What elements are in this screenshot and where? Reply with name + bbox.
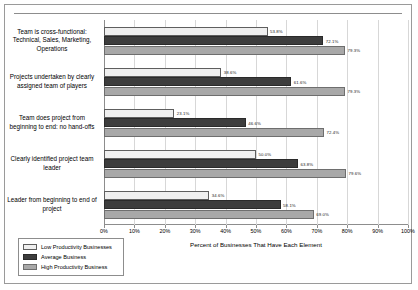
bar[interactable] (104, 77, 291, 86)
bar[interactable] (104, 128, 324, 137)
bar[interactable] (104, 46, 345, 55)
x-tick-label: 70% (302, 228, 332, 234)
legend-label: Low Productivity Businesses (41, 244, 112, 250)
bar-value-label: 58.1% (283, 202, 296, 207)
bar[interactable] (104, 36, 323, 45)
bar-row: 46.6% (104, 118, 408, 127)
bar-row: 79.3% (104, 87, 408, 96)
bar-row: 72.4% (104, 128, 408, 137)
bar-value-label: 79.6% (348, 171, 361, 176)
bar-row: 69.0% (104, 210, 408, 219)
bar-value-label: 23.1% (177, 111, 190, 116)
bar-value-label: 63.8% (300, 161, 313, 166)
bar[interactable] (104, 191, 209, 200)
bar[interactable] (104, 109, 174, 118)
x-tick-label: 40% (211, 228, 241, 234)
x-tick-label: 0% (89, 228, 119, 234)
bar-value-label: 38.6% (224, 70, 237, 75)
category-label: Leader from beginning to end of project (5, 191, 99, 219)
bar-group: 23.1%46.6%72.4% (104, 109, 408, 137)
x-tick-label: 60% (271, 228, 301, 234)
x-tick-label: 100% (393, 228, 418, 234)
legend-swatch (23, 264, 37, 270)
plot-area: 53.8%72.1%79.3%38.6%61.6%79.3%23.1%46.6%… (104, 20, 408, 225)
bar-row: 50.0% (104, 150, 408, 159)
bar[interactable] (104, 200, 281, 209)
header-divider (14, 13, 402, 14)
bar[interactable] (104, 159, 298, 168)
bar-value-label: 72.1% (326, 38, 339, 43)
chart-legend: Low Productivity BusinessesAverage Busin… (18, 238, 124, 276)
bar[interactable] (104, 118, 246, 127)
x-tick-label: 20% (150, 228, 180, 234)
bar-row: 79.3% (104, 46, 408, 55)
bar-value-label: 53.8% (270, 29, 283, 34)
x-axis-title: Percent of Businesses That Have Each Ele… (104, 241, 408, 248)
legend-item[interactable]: High Productivity Business (23, 262, 120, 272)
category-label: Projects undertaken by clearly assigned … (5, 68, 99, 96)
bar-row: 53.8% (104, 27, 408, 36)
bar-value-label: 69.0% (316, 212, 329, 217)
bar-row: 38.6% (104, 68, 408, 77)
chart-frame: 53.8%72.1%79.3%38.6%61.6%79.3%23.1%46.6%… (4, 4, 412, 284)
bar-value-label: 34.6% (212, 193, 225, 198)
bar-value-label: 72.4% (327, 130, 340, 135)
bar-row: 72.1% (104, 36, 408, 45)
legend-label: High Productivity Business (41, 264, 107, 270)
legend-item[interactable]: Average Business (23, 252, 120, 262)
bar-group: 50.0%63.8%79.6% (104, 150, 408, 178)
bar[interactable] (104, 150, 256, 159)
legend-label: Average Business (41, 254, 86, 260)
x-tick-label: 10% (119, 228, 149, 234)
bar-value-label: 79.3% (348, 48, 361, 53)
x-tick-label: 80% (332, 228, 362, 234)
category-label: Team does project from beginning to end:… (5, 109, 99, 137)
bar[interactable] (104, 87, 345, 96)
bar[interactable] (104, 27, 268, 36)
x-tick-label: 90% (363, 228, 393, 234)
bar-row: 34.6% (104, 191, 408, 200)
category-label: Team is cross-functional: Technical, Sal… (5, 27, 99, 55)
category-label: Clearly identified project team leader (5, 150, 99, 178)
bar-row: 79.6% (104, 169, 408, 178)
bar-value-label: 46.6% (248, 120, 261, 125)
bar-row: 23.1% (104, 109, 408, 118)
bar-group: 38.6%61.6%79.3% (104, 68, 408, 96)
bar-value-label: 61.6% (294, 79, 307, 84)
bar[interactable] (104, 169, 346, 178)
bar[interactable] (104, 210, 314, 219)
bar-group: 53.8%72.1%79.3% (104, 27, 408, 55)
gridline (408, 20, 409, 225)
bar-value-label: 50.0% (259, 152, 272, 157)
bar-value-label: 79.3% (348, 89, 361, 94)
x-tick-label: 50% (241, 228, 271, 234)
bar-row: 61.6% (104, 77, 408, 86)
bar-group: 34.6%58.1%69.0% (104, 191, 408, 219)
legend-swatch (23, 244, 37, 250)
bar-row: 58.1% (104, 200, 408, 209)
x-tick-label: 30% (180, 228, 210, 234)
legend-item[interactable]: Low Productivity Businesses (23, 242, 120, 252)
legend-swatch (23, 254, 37, 260)
bar[interactable] (104, 68, 221, 77)
bar-row: 63.8% (104, 159, 408, 168)
